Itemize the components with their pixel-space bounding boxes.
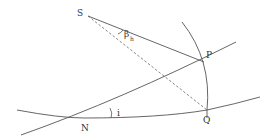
diagram-canvas: S P N Q i β h	[0, 0, 275, 140]
label-q: Q	[203, 115, 210, 125]
line-s-q-dashed	[88, 16, 207, 110]
line-s-p	[88, 16, 204, 62]
angle-i-arc	[110, 108, 112, 118]
label-n: N	[81, 123, 89, 133]
label-i: i	[117, 108, 120, 118]
label-s: S	[77, 8, 83, 18]
arc-p-q	[182, 22, 208, 118]
label-beta-subscript: h	[130, 35, 134, 42]
reference-curve	[17, 97, 260, 118]
angle-beta-arc	[118, 30, 123, 34]
label-beta: β	[124, 29, 129, 39]
label-p: P	[206, 50, 212, 60]
